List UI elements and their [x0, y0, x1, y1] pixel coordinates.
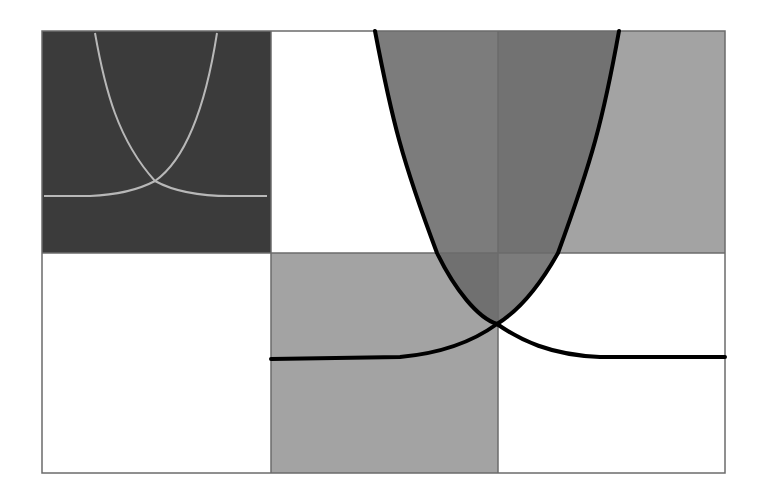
- diagram-canvas: [0, 0, 762, 503]
- cell-bottom-left: [42, 253, 271, 473]
- cell-top-left: [42, 31, 271, 253]
- curves-diagram: [0, 0, 762, 503]
